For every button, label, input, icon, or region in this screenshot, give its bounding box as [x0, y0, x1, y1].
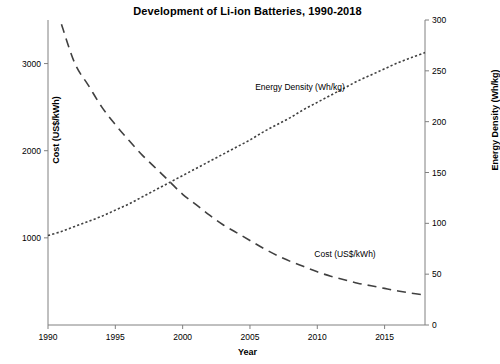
x-tick-label: 2010 [308, 332, 327, 342]
annotation-energy-density: Energy Density (Wh/kg) [255, 82, 345, 92]
x-tick-label: 1990 [39, 332, 58, 342]
right-tick-label: 0 [432, 320, 437, 330]
right-tick-label: 50 [432, 269, 442, 279]
right-tick-label: 250 [432, 66, 446, 76]
x-tick-label: 1995 [106, 332, 125, 342]
series-line-energy-density [48, 53, 425, 236]
left-tick-label: 1000 [22, 233, 41, 243]
left-axis-ticks: 100020003000 [22, 59, 48, 243]
right-tick-label: 150 [432, 168, 446, 178]
right-tick-label: 200 [432, 117, 446, 127]
left-tick-label: 2000 [22, 146, 41, 156]
x-tick-label: 2005 [241, 332, 260, 342]
annotation-cost: Cost (US$/kWh) [314, 249, 376, 259]
right-axis-ticks: 050100150200250300 [425, 15, 446, 330]
right-tick-label: 100 [432, 218, 446, 228]
left-tick-label: 3000 [22, 59, 41, 69]
x-tick-label: 2015 [375, 332, 394, 342]
x-tick-label: 2000 [173, 332, 192, 342]
right-tick-label: 300 [432, 15, 446, 25]
x-axis-ticks: 199019952000200520102015 [39, 325, 395, 342]
